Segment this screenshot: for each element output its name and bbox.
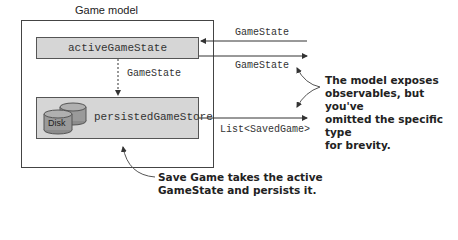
- save-annotation: Save Game takes the active GameState and…: [158, 171, 323, 197]
- incoming-edge-label: GameState: [235, 27, 289, 38]
- saved-games-edge-label: List<SavedGame>: [220, 124, 310, 135]
- outgoing-edge-label: GameState: [235, 60, 289, 71]
- observables-annotation: The model exposes observables, but you'v…: [325, 74, 458, 152]
- internal-edge-label: GameState: [127, 68, 181, 79]
